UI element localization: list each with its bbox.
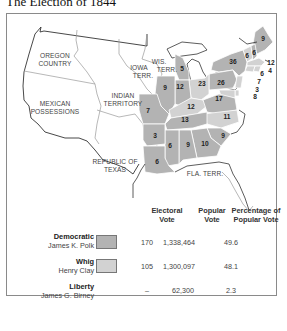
svg-text:6: 6 bbox=[168, 142, 172, 149]
label-indian-1: INDIAN bbox=[112, 92, 135, 99]
label-oregon-1: OREGON bbox=[40, 52, 70, 59]
svg-text:8: 8 bbox=[253, 93, 257, 100]
svg-text:7: 7 bbox=[257, 78, 261, 85]
label-iowa-1: IOWA bbox=[130, 64, 148, 71]
label-texas-2: TEXAS bbox=[104, 166, 127, 173]
svg-text:23: 23 bbox=[198, 80, 206, 87]
svg-text:3: 3 bbox=[153, 132, 157, 139]
svg-text:10: 10 bbox=[201, 140, 209, 147]
svg-text:6: 6 bbox=[260, 70, 264, 77]
svg-text:3: 3 bbox=[255, 86, 259, 93]
svg-text:7: 7 bbox=[146, 107, 150, 114]
svg-text:12: 12 bbox=[176, 83, 184, 90]
svg-text:6: 6 bbox=[252, 49, 256, 56]
svg-text:26: 26 bbox=[217, 79, 225, 86]
svg-text:9: 9 bbox=[261, 35, 265, 42]
label-iowa-2: TERR. bbox=[133, 72, 153, 79]
label-wis-1: WIS. bbox=[152, 58, 167, 65]
svg-text:4: 4 bbox=[268, 67, 272, 74]
svg-text:5: 5 bbox=[180, 65, 184, 72]
svg-text:12: 12 bbox=[267, 59, 275, 66]
label-texas-1: REPUBLIC OF bbox=[92, 158, 137, 165]
label-wis-2: TERR. bbox=[157, 66, 177, 73]
svg-text:9: 9 bbox=[163, 84, 167, 91]
label-mexican-2: POSSESSIONS bbox=[31, 108, 80, 115]
label-oregon-2: COUNTRY bbox=[38, 60, 72, 67]
svg-text:36: 36 bbox=[229, 58, 237, 65]
svg-text:6: 6 bbox=[155, 158, 159, 165]
svg-text:9: 9 bbox=[221, 132, 225, 139]
map-frame: OREGON COUNTRY MEXICAN POSSESSIONS INDIA… bbox=[6, 13, 277, 296]
svg-text:11: 11 bbox=[224, 113, 231, 120]
page-title: The Election of 1844 bbox=[6, 0, 116, 10]
label-mexican-1: MEXICAN bbox=[40, 100, 71, 107]
svg-text:6: 6 bbox=[245, 52, 249, 59]
svg-text:17: 17 bbox=[215, 95, 223, 102]
svg-text:13: 13 bbox=[181, 116, 189, 123]
svg-text:9: 9 bbox=[186, 141, 190, 148]
label-fla: FLA. TERR. bbox=[187, 170, 223, 177]
election-map: OREGON COUNTRY MEXICAN POSSESSIONS INDIA… bbox=[7, 14, 278, 214]
label-indian-2: TERRITORY bbox=[104, 100, 143, 107]
svg-text:12: 12 bbox=[187, 103, 195, 110]
